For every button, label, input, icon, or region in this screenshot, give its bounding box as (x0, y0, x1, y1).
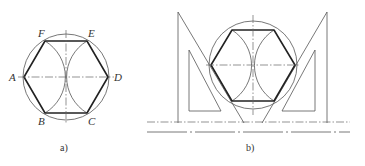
label-e: E (87, 27, 95, 39)
caption-a: a) (60, 142, 68, 154)
left-small-set-square (189, 50, 221, 111)
label-c: C (88, 115, 96, 127)
label-b: B (38, 115, 45, 127)
arc-left-b (232, 30, 252, 101)
figure-b: b) (147, 12, 350, 154)
label-f: F (37, 27, 45, 39)
label-a: A (8, 71, 16, 83)
figure-a: A B C D E F a) (8, 27, 122, 154)
label-d: D (113, 71, 122, 83)
left-large-set-square (178, 12, 244, 123)
arc-right-b (254, 30, 274, 101)
hexagon-construction-diagram: A B C D E F a) b) (0, 0, 365, 166)
caption-b: b) (246, 142, 254, 154)
right-large-set-square (262, 12, 327, 123)
